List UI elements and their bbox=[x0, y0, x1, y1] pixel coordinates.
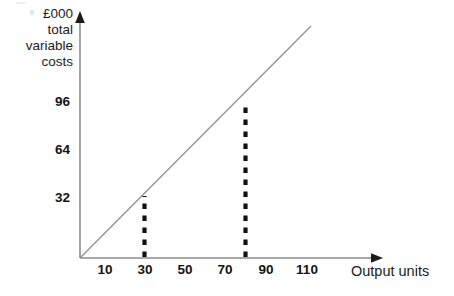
x-tick-label-110: 110 bbox=[287, 263, 327, 277]
y-tick-label-32: 32 bbox=[30, 191, 70, 205]
x-tick-label-90: 90 bbox=[246, 263, 286, 277]
y-tick-label-96: 96 bbox=[30, 95, 70, 109]
x-tick-label-70: 70 bbox=[205, 263, 245, 277]
x-tick-label-50: 50 bbox=[165, 263, 205, 277]
x-axis-arrow bbox=[371, 253, 383, 263]
x-axis-caption: Output units bbox=[351, 263, 429, 279]
y-axis-caption: £000 total variable costs bbox=[0, 6, 73, 70]
x-tick-label-30: 30 bbox=[125, 263, 165, 277]
y-tick-label-64: 64 bbox=[30, 143, 70, 157]
y-axis-caption-line-1: £000 bbox=[0, 6, 73, 22]
y-axis-caption-line-2: total bbox=[0, 22, 73, 38]
chart-figure: £000 total variable costs 96 64 32 10 30… bbox=[0, 0, 454, 296]
y-axis-caption-line-4: costs bbox=[0, 54, 73, 70]
y-axis-caption-line-3: variable bbox=[0, 38, 73, 54]
y-axis-arrow bbox=[75, 11, 85, 23]
x-tick-label-10: 10 bbox=[85, 263, 125, 277]
total-variable-costs-line bbox=[81, 26, 312, 258]
